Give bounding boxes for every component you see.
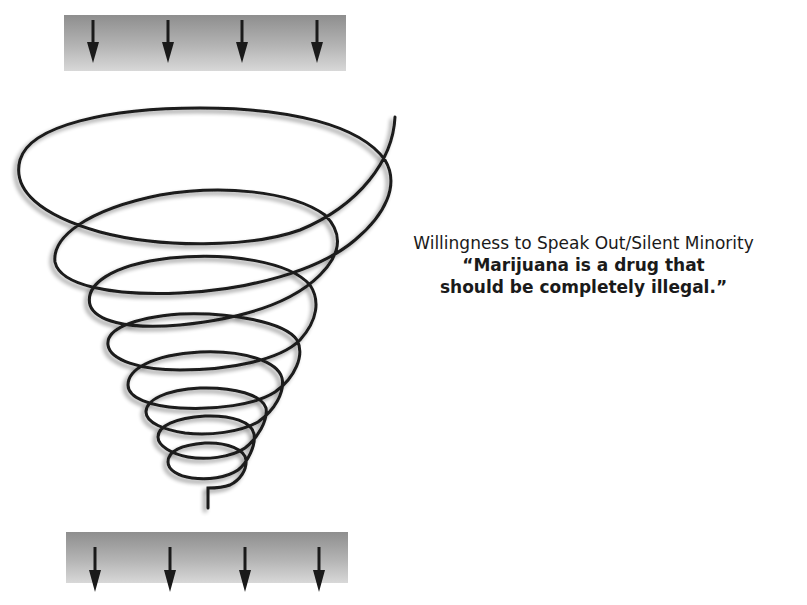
down-arrow-icon [311,20,323,63]
spiral-funnel [19,108,395,508]
spiral-diagram [0,0,807,605]
down-arrow-icon [87,20,99,63]
bottom-arrows [89,547,325,592]
caption-quote-line1: “Marijuana is a drug that [360,254,807,276]
down-arrow-icon [89,547,101,592]
down-arrow-icon [164,547,176,592]
down-arrow-icon [236,20,248,63]
caption: Willingness to Speak Out/Silent Minority… [360,232,807,298]
down-arrow-icon [162,20,174,63]
down-arrow-icon [313,547,325,592]
caption-title: Willingness to Speak Out/Silent Minority [360,232,807,254]
top-arrows [87,20,323,63]
caption-quote-line2: should be completely illegal.” [360,276,807,298]
down-arrow-icon [239,547,251,592]
